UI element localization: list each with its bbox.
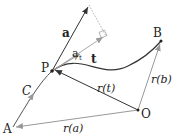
label-P: P (41, 61, 49, 75)
label-a: a (62, 26, 70, 40)
label-a-t: a (72, 47, 79, 60)
curve-vector-diagram: P A O B a a t t C r(t) r(a) r(b) (0, 0, 181, 138)
label-A: A (2, 122, 12, 136)
label-C: C (22, 84, 31, 98)
label-r-t: r(t) (97, 82, 115, 95)
point-P-dot (50, 69, 54, 73)
curve-C (13, 71, 52, 127)
label-B: B (153, 26, 162, 40)
diagram: P A O B a a t t C r(t) r(a) r(b) (0, 0, 181, 138)
label-r-b: r(b) (151, 73, 172, 86)
label-a-t-sub: t (79, 54, 82, 62)
point-O-dot (137, 109, 140, 112)
vector-a (52, 7, 88, 71)
label-t: t (91, 52, 97, 66)
label-O: O (141, 107, 151, 121)
dotted-projection-line (89, 5, 106, 36)
curve-C-upper (52, 41, 161, 71)
label-r-a: r(a) (63, 122, 83, 135)
right-angle-marker (99, 30, 107, 38)
